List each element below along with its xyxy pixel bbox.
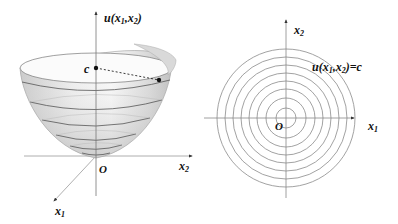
origin-label-right: O: [275, 120, 283, 132]
x1-axis-label: x1: [54, 204, 65, 219]
diagram-canvas: u(x1,x2) c O x2 x1 x2 u(x1,x2)=c O x1: [0, 0, 398, 224]
origin-label: O: [99, 163, 107, 175]
paraboloid-panel: u(x1,x2) c O x2 x1: [20, 11, 192, 219]
x1-axis: [54, 156, 96, 201]
x2-axis-label: x2: [178, 159, 189, 174]
x2-axis-label-right: x2: [293, 23, 304, 38]
contour-label: u(x1,x2)=c: [312, 60, 363, 75]
contour-panel: x2 u(x1,x2)=c O x1: [204, 20, 378, 198]
c-point: [94, 66, 98, 70]
c-label: c: [84, 62, 90, 76]
u-axis-label: u(x1,x2): [104, 11, 142, 26]
x1-axis-label-right: x1: [367, 119, 378, 134]
surface-point: [157, 78, 161, 82]
